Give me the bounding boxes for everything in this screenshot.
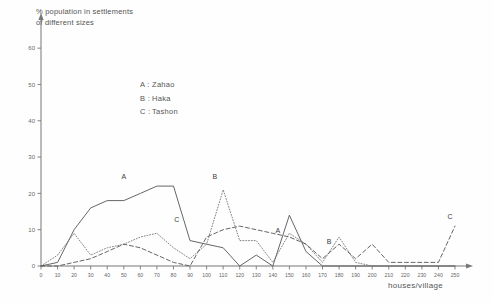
svg-text:A: A bbox=[121, 173, 126, 180]
svg-text:230: 230 bbox=[418, 272, 427, 278]
svg-text:210: 210 bbox=[384, 272, 393, 278]
svg-text:50: 50 bbox=[121, 272, 127, 278]
svg-text:100: 100 bbox=[202, 272, 211, 278]
svg-text:C: C bbox=[448, 213, 453, 220]
svg-text:250: 250 bbox=[451, 272, 460, 278]
svg-text:200: 200 bbox=[368, 272, 377, 278]
chart-series bbox=[41, 186, 455, 266]
svg-text:20: 20 bbox=[71, 272, 77, 278]
svg-text:160: 160 bbox=[302, 272, 311, 278]
svg-text:120: 120 bbox=[235, 272, 244, 278]
svg-text:20: 20 bbox=[28, 191, 35, 197]
svg-text:10: 10 bbox=[28, 227, 35, 233]
svg-text:0: 0 bbox=[32, 263, 36, 269]
svg-text:240: 240 bbox=[434, 272, 443, 278]
chart-plot-area: 0102030405060010203040506070809010011012… bbox=[0, 0, 494, 303]
svg-text:A: A bbox=[275, 227, 280, 234]
svg-text:40: 40 bbox=[28, 118, 35, 124]
svg-text:80: 80 bbox=[171, 272, 177, 278]
svg-text:B: B bbox=[327, 238, 332, 245]
svg-text:B: B bbox=[213, 173, 218, 180]
svg-text:60: 60 bbox=[137, 272, 143, 278]
svg-text:C: C bbox=[174, 216, 179, 223]
svg-text:30: 30 bbox=[88, 272, 94, 278]
svg-text:30: 30 bbox=[28, 154, 35, 160]
svg-text:10: 10 bbox=[55, 272, 61, 278]
svg-text:40: 40 bbox=[104, 272, 110, 278]
chart-series-annotations: ABCABC bbox=[121, 173, 452, 245]
chart-axes: 0102030405060010203040506070809010011012… bbox=[28, 13, 473, 278]
svg-text:150: 150 bbox=[285, 272, 294, 278]
svg-text:190: 190 bbox=[351, 272, 360, 278]
svg-text:90: 90 bbox=[187, 272, 193, 278]
svg-text:110: 110 bbox=[219, 272, 227, 278]
chart-page: % population in settlements of different… bbox=[0, 0, 494, 303]
svg-text:50: 50 bbox=[28, 82, 35, 88]
svg-text:70: 70 bbox=[154, 272, 160, 278]
x-axis-label: houses/village bbox=[388, 281, 443, 290]
svg-text:180: 180 bbox=[335, 272, 344, 278]
svg-text:0: 0 bbox=[40, 272, 43, 278]
svg-text:60: 60 bbox=[28, 45, 35, 51]
svg-text:170: 170 bbox=[318, 272, 327, 278]
svg-text:140: 140 bbox=[269, 272, 278, 278]
svg-text:220: 220 bbox=[401, 272, 410, 278]
svg-text:130: 130 bbox=[252, 272, 261, 278]
